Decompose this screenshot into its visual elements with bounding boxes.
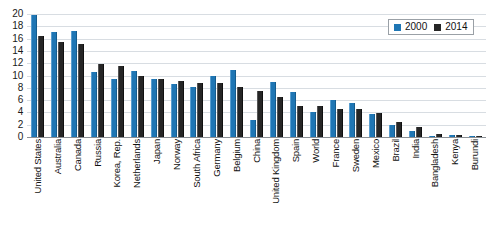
bar-2014 xyxy=(396,122,402,137)
bar-2014 xyxy=(376,113,382,137)
bar-group xyxy=(187,14,207,137)
x-axis-tick: Mexico xyxy=(366,139,386,233)
legend-swatch-icon-2000 xyxy=(394,24,401,31)
y-axis: 20181614121086420 xyxy=(0,14,26,137)
bar-2000 xyxy=(349,103,355,137)
legend-label-2000: 2000 xyxy=(405,22,427,32)
bar-2000 xyxy=(91,72,97,137)
bar-2014 xyxy=(118,66,124,137)
bar-2014 xyxy=(436,134,442,137)
x-axis: United StatesAustraliaCanadaRussiaKorea,… xyxy=(27,139,486,233)
x-axis-tick: Netherlands xyxy=(127,139,147,233)
bar-group xyxy=(366,14,386,137)
bar-2014 xyxy=(138,76,144,137)
bar-2014 xyxy=(58,42,64,137)
x-axis-tick-label: Korea, Rep. xyxy=(112,139,122,188)
bar-2000 xyxy=(51,32,57,137)
x-axis-tick: India xyxy=(406,139,426,233)
x-axis-tick: World xyxy=(306,139,326,233)
bar-group xyxy=(167,14,187,137)
bar-group xyxy=(68,14,88,137)
bar-group xyxy=(326,14,346,137)
bar-2014 xyxy=(257,91,263,137)
bar-2014 xyxy=(78,44,84,137)
bar-2000 xyxy=(210,76,216,137)
x-axis-tick-label: United Kingdom xyxy=(271,139,281,204)
x-axis-tick-label: Mexico xyxy=(371,139,381,168)
chart-title-strip xyxy=(0,0,486,9)
bar-2000 xyxy=(190,87,196,137)
bar-group xyxy=(286,14,306,137)
bar-2000 xyxy=(310,112,316,137)
bar-2000 xyxy=(389,125,395,137)
x-axis-tick-label: Japan xyxy=(152,139,162,164)
x-axis-tick: Australia xyxy=(48,139,68,233)
bar-2014 xyxy=(337,109,343,137)
bar-group xyxy=(306,14,326,137)
x-axis-tick-label: Brazil xyxy=(391,139,401,162)
x-axis-tick: Canada xyxy=(68,139,88,233)
legend-entry-2014: 2014 xyxy=(434,22,467,32)
x-axis-tick: Spain xyxy=(286,139,306,233)
legend-swatch-icon-2014 xyxy=(434,24,441,31)
bar-2000 xyxy=(151,79,157,137)
x-axis-tick-label: Australia xyxy=(53,139,63,174)
bar-2000 xyxy=(111,79,117,137)
bar-2000 xyxy=(171,84,177,137)
x-axis-tick-label: World xyxy=(311,139,321,163)
y-axis-tick-label: 6 xyxy=(18,95,23,105)
bar-group xyxy=(108,14,128,137)
bar-2000 xyxy=(330,100,336,138)
x-axis-tick-label: Germany xyxy=(212,139,222,177)
bar-2000 xyxy=(290,92,296,137)
bar-2014 xyxy=(38,36,44,137)
bar-2000 xyxy=(270,82,276,137)
x-axis-tick: Korea, Rep. xyxy=(108,139,128,233)
y-axis-tick-label: 0 xyxy=(18,132,23,142)
legend-label-2014: 2014 xyxy=(445,22,467,32)
y-axis-tick-label: 18 xyxy=(12,21,23,31)
y-axis-tick-label: 14 xyxy=(12,46,23,56)
x-axis-tick-label: Bangladesh xyxy=(430,139,440,187)
bar-2014 xyxy=(297,106,303,137)
x-axis-tick: Kenya xyxy=(445,139,465,233)
bar-2014 xyxy=(217,83,223,137)
x-axis-tick-label: South Africa xyxy=(192,139,202,188)
bar-chart: 20181614121086420 United StatesAustralia… xyxy=(0,0,486,235)
x-axis-tick-label: Spain xyxy=(291,139,301,162)
y-axis-tick-label: 8 xyxy=(18,83,23,93)
x-axis-tick-label: Norway xyxy=(172,139,182,170)
x-axis-tick: Russia xyxy=(88,139,108,233)
bar-2014 xyxy=(476,136,482,137)
bar-2000 xyxy=(409,131,415,137)
x-axis-tick: Brazil xyxy=(386,139,406,233)
y-axis-tick-label: 20 xyxy=(12,9,23,19)
bar-2014 xyxy=(197,83,203,137)
x-axis-tick-label: Canada xyxy=(73,139,83,171)
chart-legend: 2000 2014 xyxy=(388,19,474,35)
bar-2014 xyxy=(317,106,323,137)
bar-2000 xyxy=(230,70,236,137)
x-axis-tick: Belgium xyxy=(227,139,247,233)
x-axis-tick-label: Kenya xyxy=(450,139,460,165)
x-axis-tick-label: India xyxy=(411,139,421,159)
x-axis-tick: United Kingdom xyxy=(267,139,287,233)
x-axis-tick: Sweden xyxy=(346,139,366,233)
y-axis-tick-label: 10 xyxy=(12,71,23,81)
bar-group xyxy=(88,14,108,137)
x-axis-tick-label: Sweden xyxy=(351,139,361,172)
bar-2014 xyxy=(237,87,243,137)
y-axis-tick-label: 12 xyxy=(12,58,23,68)
bar-2000 xyxy=(369,114,375,137)
x-axis-tick-label: United States xyxy=(33,139,43,193)
bar-group xyxy=(127,14,147,137)
x-axis-tick: South Africa xyxy=(187,139,207,233)
bar-group xyxy=(227,14,247,137)
bar-group xyxy=(28,14,48,137)
x-axis-tick-label: Burundi xyxy=(470,139,480,170)
x-axis-tick: Burundi xyxy=(465,139,485,233)
bar-2014 xyxy=(98,64,104,137)
bar-2014 xyxy=(178,81,184,137)
bar-group xyxy=(346,14,366,137)
bar-2014 xyxy=(277,97,283,137)
